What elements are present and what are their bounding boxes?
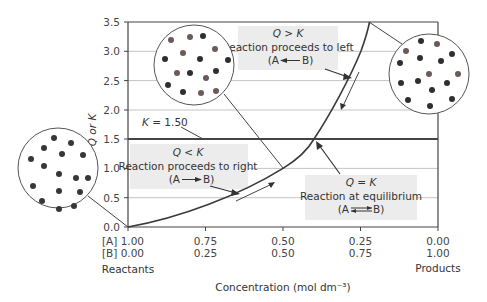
x-tick-labels-b: [B] 0.00 0.25 0.50 0.75 1.00 bbox=[102, 247, 450, 259]
x-tick-labels-a: [A] 1.00 0.75 0.50 0.25 0.00 bbox=[102, 235, 450, 247]
q-vs-concentration-chart: 0.0 0.5 1.0 1.5 2.0 2.5 3.0 3.5 Q or K [… bbox=[0, 0, 487, 302]
svg-text:[B] 0.00: [B] 0.00 bbox=[102, 247, 144, 259]
products-molecule-circle bbox=[389, 34, 469, 114]
svg-text:B): B) bbox=[203, 173, 214, 185]
svg-text:Q < K: Q < K bbox=[173, 146, 205, 158]
svg-text:0.75: 0.75 bbox=[349, 247, 372, 259]
svg-text:0.00: 0.00 bbox=[426, 235, 449, 247]
svg-text:(A: (A bbox=[268, 54, 280, 66]
k-value-label: K = 1.50 bbox=[142, 116, 188, 128]
products-label: Products bbox=[415, 262, 460, 274]
reverse-arrowhead bbox=[340, 103, 346, 110]
svg-text:2.0: 2.0 bbox=[103, 104, 120, 116]
svg-text:0.25: 0.25 bbox=[349, 235, 372, 247]
y-tick-labels: 0.0 0.5 1.0 1.5 2.0 2.5 3.0 3.5 bbox=[103, 16, 120, 233]
svg-text:Q = K: Q = K bbox=[346, 176, 378, 188]
q-equal-pointer bbox=[319, 145, 340, 174]
svg-text:0.50: 0.50 bbox=[271, 247, 294, 259]
svg-text:(A: (A bbox=[169, 173, 181, 185]
svg-text:0.0: 0.0 bbox=[103, 221, 120, 233]
svg-text:Reaction proceeds to right: Reaction proceeds to right bbox=[119, 160, 258, 172]
reactants-molecule-circle bbox=[18, 128, 98, 212]
svg-text:Reaction at equilibrium: Reaction at equilibrium bbox=[300, 190, 422, 202]
svg-text:Q > K: Q > K bbox=[273, 27, 305, 39]
svg-text:B): B) bbox=[373, 203, 384, 215]
svg-text:1.00: 1.00 bbox=[426, 247, 449, 259]
svg-text:Reaction proceeds to left: Reaction proceeds to left bbox=[222, 41, 353, 53]
x-ticks bbox=[128, 227, 438, 231]
svg-text:0.5: 0.5 bbox=[103, 192, 120, 204]
svg-text:1.0: 1.0 bbox=[103, 162, 120, 174]
svg-text:0.75: 0.75 bbox=[194, 235, 217, 247]
svg-text:0.25: 0.25 bbox=[194, 247, 217, 259]
svg-text:(A: (A bbox=[338, 203, 350, 215]
svg-text:0.50: 0.50 bbox=[271, 235, 294, 247]
svg-text:2.5: 2.5 bbox=[103, 75, 120, 87]
svg-text:3.0: 3.0 bbox=[103, 45, 120, 57]
svg-text:[A] 1.00: [A] 1.00 bbox=[102, 235, 144, 247]
reactants-label: Reactants bbox=[102, 263, 154, 275]
svg-text:3.5: 3.5 bbox=[103, 16, 120, 28]
svg-text:1.5: 1.5 bbox=[103, 133, 120, 145]
svg-text:B): B) bbox=[302, 54, 313, 66]
mixture-molecule-circle bbox=[154, 25, 234, 105]
k-label-leader bbox=[181, 127, 203, 139]
product-circle-leader bbox=[369, 22, 402, 44]
x-axis-label: Concentration (mol dm⁻³) bbox=[215, 281, 350, 293]
